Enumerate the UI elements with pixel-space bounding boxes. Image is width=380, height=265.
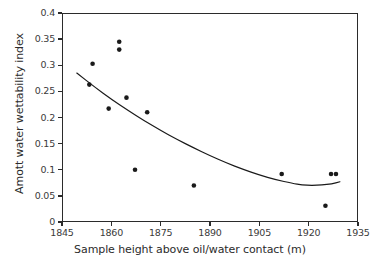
data-point bbox=[334, 172, 339, 177]
y-tick-label: 0.3 bbox=[40, 60, 55, 70]
y-tick-mark bbox=[58, 38, 62, 39]
y-axis-title: Amott water wettability index bbox=[13, 9, 26, 219]
data-point bbox=[90, 61, 95, 66]
y-tick-label: 0.1 bbox=[40, 165, 55, 175]
y-tick-label: 0.15 bbox=[35, 139, 55, 149]
x-tick-mark bbox=[259, 222, 260, 226]
data-point bbox=[323, 204, 328, 209]
x-tick-label: 1860 bbox=[100, 228, 123, 238]
x-tick-label: 1890 bbox=[198, 228, 221, 238]
y-tick-label: 0 bbox=[49, 217, 55, 227]
data-point bbox=[117, 47, 122, 52]
y-tick-mark bbox=[58, 117, 62, 118]
chart-figure: 00.050.10.150.20.250.30.350.4 1845186018… bbox=[0, 0, 380, 265]
x-tick-mark bbox=[308, 222, 309, 226]
y-tick-label: 0.35 bbox=[35, 34, 55, 44]
x-tick-mark bbox=[209, 222, 210, 226]
y-tick-mark bbox=[58, 169, 62, 170]
plot-data-layer bbox=[62, 13, 358, 222]
x-axis-title: Sample height above oil/water contact (m… bbox=[0, 243, 380, 256]
data-point bbox=[133, 167, 138, 172]
data-point bbox=[106, 106, 111, 111]
x-tick-label: 1920 bbox=[297, 228, 320, 238]
x-tick-mark bbox=[61, 222, 62, 226]
y-tick-mark bbox=[58, 65, 62, 66]
data-point bbox=[124, 95, 129, 100]
x-tick-mark bbox=[357, 222, 358, 226]
x-tick-label: 1875 bbox=[149, 228, 172, 238]
y-tick-label: 0.2 bbox=[40, 113, 55, 123]
x-tick-mark bbox=[111, 222, 112, 226]
y-tick-label: 0.4 bbox=[40, 8, 55, 18]
data-point bbox=[192, 183, 197, 188]
data-points-group bbox=[87, 39, 338, 208]
data-point bbox=[329, 172, 334, 177]
y-tick-mark bbox=[58, 12, 62, 13]
data-point bbox=[145, 110, 150, 115]
y-tick-label: 0.05 bbox=[35, 191, 55, 201]
y-tick-label: 0.25 bbox=[35, 86, 55, 96]
data-point bbox=[279, 172, 284, 177]
data-point bbox=[117, 39, 122, 44]
x-tick-mark bbox=[160, 222, 161, 226]
y-tick-mark bbox=[58, 143, 62, 144]
x-tick-label: 1935 bbox=[346, 228, 369, 238]
trend-line bbox=[77, 73, 340, 185]
y-tick-mark bbox=[58, 195, 62, 196]
x-tick-label: 1905 bbox=[248, 228, 271, 238]
y-tick-mark bbox=[58, 91, 62, 92]
x-tick-label: 1845 bbox=[50, 228, 73, 238]
data-point bbox=[87, 82, 92, 87]
